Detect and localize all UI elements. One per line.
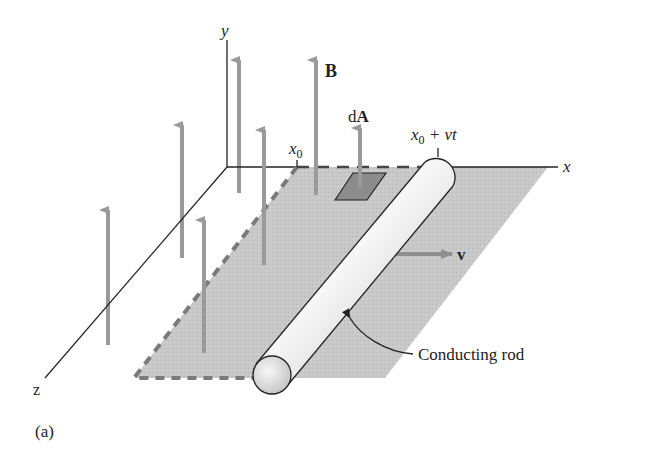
velocity-label: v [457, 245, 466, 264]
rod-callout-label: Conducting rod [418, 345, 525, 364]
rod-on-rails-diagram: x y z x0 dA B v x0 + vt Conducting rod (… [0, 0, 650, 461]
b-field-label: B [325, 61, 337, 81]
x0-label: x0 [288, 139, 303, 161]
panel-label: (a) [35, 422, 54, 441]
y-axis-label: y [219, 21, 229, 40]
da-label: dA [348, 107, 370, 126]
x-axis-label: x [562, 157, 571, 176]
z-axis-label: z [33, 381, 40, 398]
rod-position-label: x0 + vt [410, 125, 458, 147]
rod-end-cap [253, 356, 291, 394]
